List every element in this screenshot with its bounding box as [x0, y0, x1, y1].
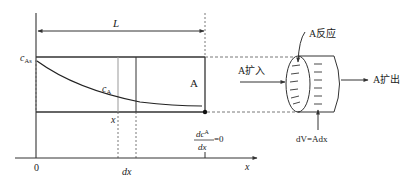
position-label: x: [110, 114, 116, 125]
surface-conc-label: cAs: [20, 52, 32, 64]
bc-numerator: dcA: [196, 129, 210, 139]
x-axis-label: x: [244, 161, 250, 172]
concentration-curve: [37, 61, 202, 106]
conc-label: cA: [102, 83, 111, 95]
diffusion-diagram: L cAs cA A x dcA dx =0 0 dx x: [0, 0, 405, 183]
dx-label: dx: [122, 166, 132, 177]
volume-element-label: dV=Adx: [296, 134, 328, 144]
bc-denominator: dx: [198, 142, 207, 152]
length-label: L: [112, 17, 119, 29]
origin-label: 0: [34, 162, 39, 173]
area-label: A: [190, 77, 198, 89]
bc-equals: =0: [214, 134, 224, 144]
boundary-point: [203, 110, 207, 114]
reaction-label: A反应: [309, 27, 336, 39]
diffuse-in-label: A扩入: [238, 64, 265, 76]
volume-element-cylinder: [286, 56, 340, 112]
diffuse-out-label: A扩出: [373, 73, 400, 85]
